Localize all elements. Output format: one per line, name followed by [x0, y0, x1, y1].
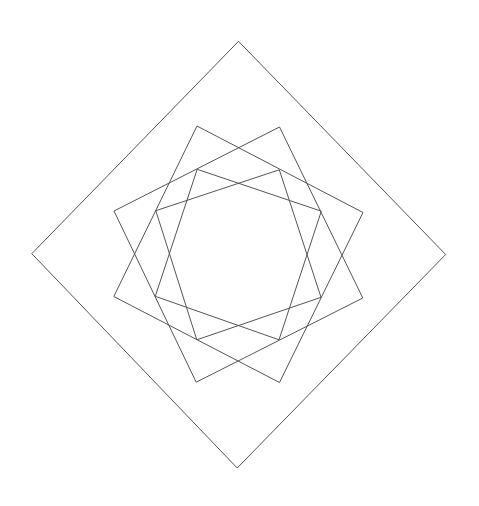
- geometric-diagram: [0, 0, 479, 506]
- background: [0, 0, 479, 506]
